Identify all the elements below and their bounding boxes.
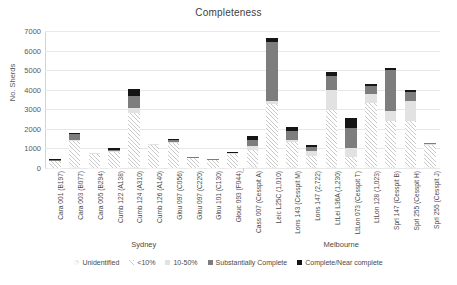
bar-stack[interactable] [247, 136, 259, 168]
gridline [45, 51, 440, 52]
group-separator [243, 168, 244, 172]
bar-segment [168, 143, 180, 168]
bar-segment [108, 152, 120, 168]
bar-stack[interactable] [187, 157, 199, 168]
bar-segment [286, 131, 298, 140]
x-tick: Cumb 126 (A140) [156, 171, 163, 223]
bar-stack[interactable] [286, 127, 298, 168]
bar-segment [326, 110, 338, 167]
bar-stack[interactable] [168, 139, 180, 168]
bar-stack[interactable] [148, 144, 160, 168]
y-axis-title: No. Sherds [8, 48, 17, 118]
bar-segment [128, 89, 140, 96]
bar-segment [247, 166, 259, 168]
bar-segment [385, 167, 397, 168]
group-label: Melbourne [301, 240, 381, 249]
x-tick-label: Leic L25C (1,010) [275, 171, 282, 223]
x-tick: Cumb 124 (A310) [136, 171, 143, 223]
legend-item[interactable]: Complete/Near complete [297, 259, 382, 266]
x-tick-label: Cara 005 (B294) [97, 171, 104, 220]
legend-label: Complete/Near complete [305, 259, 382, 266]
legend-item[interactable]: 10-50% [165, 259, 197, 266]
x-tick: Leic L25C (1,010) [275, 171, 282, 223]
completeness-chart: Completeness 010002000300040005000600070… [0, 0, 457, 285]
bar-stack[interactable] [227, 152, 239, 168]
bar-stack[interactable] [405, 90, 417, 168]
bar-stack[interactable] [365, 84, 377, 168]
x-tick-label: Cara 003 (B077) [77, 171, 84, 220]
x-tick: Sprl 255 (Cesspit H) [413, 171, 420, 230]
bar-stack[interactable] [424, 143, 436, 168]
legend-swatch [208, 260, 213, 265]
y-tick-label: 7000 [1, 27, 41, 36]
bar-stack[interactable] [89, 153, 101, 168]
legend-item[interactable]: <10% [129, 259, 155, 266]
legend-item[interactable]: Substantially Complete [208, 259, 288, 266]
bar-segment [89, 154, 101, 168]
chart-legend: Unidentified<10%10-50%Substantially Comp… [0, 259, 457, 266]
bar-segment [266, 42, 278, 101]
x-tick: LtLon 073 (Cesspit T) [354, 171, 361, 234]
bar-segment [227, 154, 239, 168]
bar-segment [326, 76, 338, 90]
x-tick-label: LtLei L36A (1,230) [334, 171, 341, 225]
x-tick: Sprl 255 (Cesspit J) [433, 171, 440, 229]
bar-segment [385, 111, 397, 121]
bar-stack[interactable] [326, 72, 338, 168]
bar-segment [128, 113, 140, 167]
x-tick-label: LtLon 128 (1,023) [373, 171, 380, 223]
bar-segment [345, 118, 357, 128]
bar-segment [247, 150, 259, 166]
x-tick-label: Glou 097 (C056) [176, 171, 183, 220]
legend-swatch [129, 260, 134, 265]
x-tick: Glouc 093 (F044) [235, 171, 242, 222]
x-tick-label: Cumb 126 (A140) [156, 171, 163, 223]
legend-label: 10-50% [173, 259, 197, 266]
bar-stack[interactable] [345, 118, 357, 168]
x-tick: Sprl 147 (Cesspit B) [393, 171, 400, 230]
bar-stack[interactable] [266, 38, 278, 168]
bar-stack[interactable] [207, 159, 219, 168]
x-tick: Glou 097 (C220) [196, 171, 203, 220]
x-tick-label: Lons 143 (Cesspit M) [294, 171, 301, 234]
bar-segment [365, 167, 377, 168]
gridline [45, 90, 440, 91]
bar-segment [128, 96, 140, 108]
bar-segment [286, 167, 298, 168]
bar-stack[interactable] [306, 145, 318, 168]
x-tick-label: Sprl 147 (Cesspit B) [393, 171, 400, 230]
bar-segment [385, 121, 397, 167]
x-tick: Cara 001 (B197) [57, 171, 64, 220]
bar-stack[interactable] [69, 133, 81, 168]
bar-segment [266, 104, 278, 167]
bar-stack[interactable] [385, 68, 397, 168]
legend-swatch [165, 260, 170, 265]
bar-stack[interactable] [49, 159, 61, 168]
bar-segment [345, 148, 357, 157]
y-tick-label: 0 [1, 164, 41, 173]
gridline [45, 70, 440, 71]
x-tick: Cumb 122 (A138) [117, 171, 124, 223]
x-tick-label: Sprl 255 (Cesspit H) [413, 171, 420, 230]
y-axis-tick-labels: 01000200030004000500060007000 [0, 31, 41, 169]
bar-segment [365, 103, 377, 167]
legend-item[interactable]: Unidentified [74, 259, 119, 266]
x-tick: Glou 097 (C056) [176, 171, 183, 220]
gridline [45, 148, 440, 149]
chart-title: Completeness [0, 7, 457, 18]
bar-segment [187, 158, 199, 167]
group-label: Sydney [104, 240, 184, 249]
bar-segment [345, 167, 357, 168]
gridline [45, 31, 440, 32]
y-tick-label: 2000 [1, 125, 41, 134]
bar-segment [69, 167, 81, 168]
bar-stack[interactable] [108, 148, 120, 168]
gridline [45, 109, 440, 110]
y-tick-label: 1000 [1, 144, 41, 153]
bar-segment [207, 160, 219, 167]
x-tick-label: Cumb 124 (A310) [136, 171, 143, 223]
bar-segment [405, 101, 417, 121]
bar-stack[interactable] [128, 89, 140, 168]
x-tick: LtLon 128 (1,023) [373, 171, 380, 223]
x-tick: Cara 003 (B077) [77, 171, 84, 220]
